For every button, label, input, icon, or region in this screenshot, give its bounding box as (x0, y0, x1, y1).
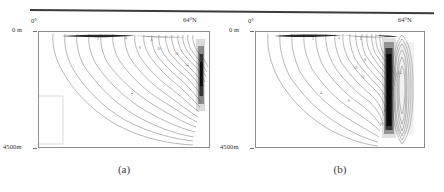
svg-text:8: 8 (384, 109, 386, 113)
svg-text:6: 6 (360, 37, 362, 41)
svg-text:2: 2 (312, 37, 314, 41)
figure-container: 0° 64°N 0 m 4500m (0, 0, 444, 192)
svg-text:4: 4 (131, 91, 133, 95)
panel-a-tick-bottom (33, 148, 37, 149)
panel-a-surface-band (61, 35, 187, 38)
svg-text:4: 4 (125, 36, 127, 40)
svg-text:4: 4 (320, 91, 322, 95)
svg-text:8: 8 (364, 58, 366, 62)
svg-text:2: 2 (97, 37, 99, 41)
panel-b-depth-bottom-label: 4500m (220, 143, 239, 150)
panel-b-tick-top (250, 31, 254, 32)
panel-b-depth-top-label: 0 m (229, 26, 239, 33)
svg-text:10: 10 (380, 122, 384, 126)
svg-text:10: 10 (354, 66, 358, 70)
panel-a-tick-top (33, 31, 37, 32)
svg-text:12: 12 (361, 75, 365, 79)
svg-text:14: 14 (185, 63, 189, 67)
panel-b-north-label: 64°N (398, 16, 412, 23)
panel-a-north-label: 64°N (183, 16, 197, 23)
svg-text:6: 6 (151, 38, 153, 42)
svg-text:12: 12 (175, 52, 179, 56)
panel-a-depth-top-label: 0 m (12, 26, 22, 33)
panel-b-convergence-band (382, 38, 396, 138)
page-rule-divider (30, 9, 434, 14)
panel-b-tick-bottom (250, 148, 254, 149)
panel-a-sinking-band (196, 39, 205, 111)
svg-text:8: 8 (139, 46, 141, 50)
svg-text:14: 14 (398, 71, 402, 75)
svg-text:10: 10 (157, 47, 161, 51)
panel-a-depth-bottom-label: 4500m (3, 143, 22, 150)
panel-b-contours: 2 4 6 8 10 12 14 4 6 8 10 (256, 32, 425, 148)
svg-text:6: 6 (348, 99, 350, 103)
panel-a-contours: 2 4 6 8 10 12 14 4 (39, 32, 210, 148)
panel-a-equator-label: 0° (31, 17, 37, 24)
panel-a-plot-area: 2 4 6 8 10 12 14 4 (38, 31, 210, 148)
panel-b-right-shading (396, 42, 414, 134)
panel-a-caption: (a) (94, 163, 154, 175)
panel-b-plot-area: 2 4 6 8 10 12 14 4 6 8 10 (255, 31, 425, 148)
panel-b-caption: (b) (310, 163, 370, 175)
svg-text:4: 4 (338, 36, 340, 40)
panel-a-inset-rectangle (39, 96, 63, 144)
panel-b-equator-label: 0° (248, 17, 254, 24)
panel-b-surface-band (274, 35, 398, 38)
